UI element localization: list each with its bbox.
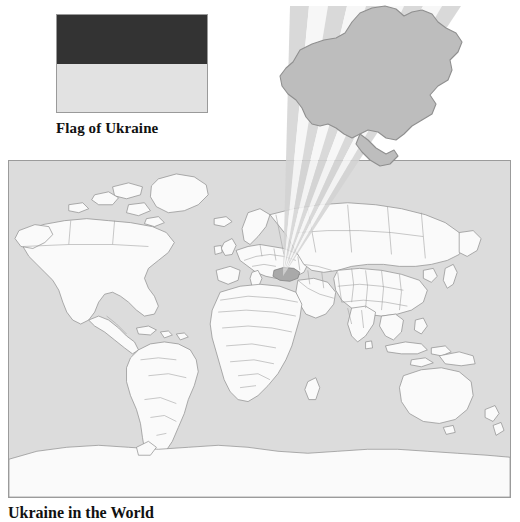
flag-caption: Flag of Ukraine <box>56 120 210 137</box>
figure-stage: Flag of Ukraine <box>0 0 520 522</box>
flag-of-ukraine <box>56 14 208 113</box>
ukraine-inset <box>280 6 462 166</box>
map-figure: Ukraine in the World <box>8 160 511 522</box>
flag-upper-band <box>57 15 207 64</box>
flag-lower-band <box>57 64 207 113</box>
flag-figure: Flag of Ukraine <box>56 14 210 137</box>
world-map-graphic <box>9 161 510 497</box>
map-caption: Ukraine in the World <box>8 504 511 522</box>
world-map <box>8 160 511 498</box>
